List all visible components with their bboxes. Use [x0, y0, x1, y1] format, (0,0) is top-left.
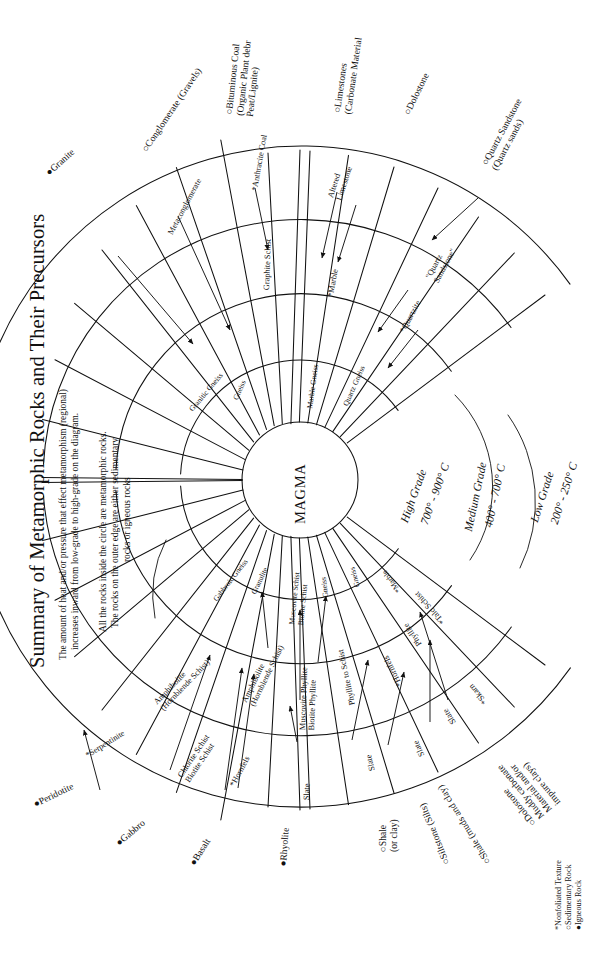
divider-l15	[340, 523, 514, 707]
med-label-graphite-schist: Graphite Schist	[262, 239, 273, 291]
description-line-4: The rocks on the outer edge are either s…	[110, 438, 121, 628]
description-line-5: rocks or igneous rocks	[122, 477, 133, 562]
divider-u9	[291, 150, 300, 424]
description-line-3: All the rocks inside the circle are meta…	[98, 431, 109, 632]
arc-outer-upper	[0, 146, 570, 459]
legend-item-igneous: ●Igneous Rock	[573, 880, 584, 930]
divider-u15	[340, 253, 514, 437]
low-label-slate-s11: Slate	[302, 783, 312, 800]
arc-medium-upper	[116, 294, 451, 470]
magma-label: MAGMA	[292, 464, 308, 524]
arc-high-lower	[181, 486, 399, 599]
arc-outer-lower	[0, 501, 570, 807]
page-title: Summary of Metamorphic Rocks and Their P…	[26, 214, 49, 668]
grade-sep-left	[153, 540, 166, 618]
description-line-1: The amount of heat and/or pressure that …	[58, 389, 69, 660]
diagram-canvas: Summary of Metamorphic Rocks and Their P…	[0, 0, 612, 959]
grade-sep-med	[508, 415, 536, 568]
description-line-2: increases inward from low-grade to high-…	[70, 413, 81, 650]
med-label-muscovite-biotite-phyllite: Muscovite Phyllite Biotite Phyllite	[298, 667, 319, 731]
outer-label-shale-clay: ○Shale (or clay)	[378, 819, 399, 852]
